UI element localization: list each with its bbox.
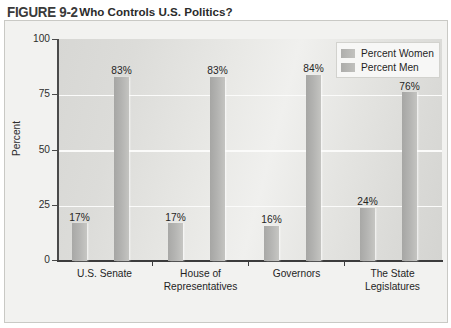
bar-value-label: 17% xyxy=(63,212,96,223)
bar-men-house-of-representatives[interactable]: 83% xyxy=(210,39,225,261)
bar-women-governors[interactable]: 16% xyxy=(264,39,279,261)
bar-value-label: 76% xyxy=(393,81,426,92)
bar-men-us-senate[interactable]: 83% xyxy=(114,39,129,261)
bar-chart: 0 25 50 75 100 Percent 17% 83% 17% xyxy=(5,21,449,324)
x-tick-mark-3 xyxy=(344,261,345,266)
bar-value-label: 24% xyxy=(351,196,384,207)
y-tick-label-25: 25 xyxy=(6,200,50,210)
bar-rect xyxy=(114,77,129,261)
legend-label: Percent Men xyxy=(361,62,419,73)
y-axis-labels: 0 25 50 75 100 xyxy=(5,21,50,324)
bar-rect xyxy=(360,208,375,261)
bar-rect xyxy=(306,75,321,262)
category-label-house-of-representatives: House of Representatives xyxy=(153,268,248,293)
y-tick-mark-25 xyxy=(52,205,57,206)
category-label-line: Representatives xyxy=(153,281,248,294)
category-label-governors: Governors xyxy=(249,268,344,281)
legend-swatch-icon xyxy=(341,49,355,58)
figure-panel: 0 25 50 75 100 Percent 17% 83% 17% xyxy=(4,20,448,323)
bar-value-label: 17% xyxy=(159,212,192,223)
category-label-us-senate: U.S. Senate xyxy=(57,268,152,281)
figure-number: FIGURE 9-2 xyxy=(7,4,78,19)
legend-label: Percent Women xyxy=(361,48,434,59)
bar-women-us-senate[interactable]: 17% xyxy=(72,39,87,261)
bar-rect xyxy=(168,223,183,261)
figure-caption: Who Controls U.S. Politics? xyxy=(79,5,232,19)
category-label-line: The State xyxy=(345,268,440,281)
y-axis-line xyxy=(57,39,59,261)
bar-value-label: 16% xyxy=(255,214,288,225)
y-tick-label-75: 75 xyxy=(6,89,50,99)
y-axis-title: Percent xyxy=(11,109,22,169)
bar-value-label: 84% xyxy=(297,63,330,74)
category-label-the-state-legislatures: The State Legislatures xyxy=(345,268,440,293)
y-tick-label-100: 100 xyxy=(6,34,50,44)
bar-value-label: 83% xyxy=(105,65,138,76)
bar-men-governors[interactable]: 84% xyxy=(306,39,321,261)
legend-item-percent-women[interactable]: Percent Women xyxy=(341,46,434,60)
y-tick-mark-50 xyxy=(52,150,57,151)
chart-legend: Percent Women Percent Men xyxy=(336,42,440,78)
y-tick-mark-0 xyxy=(52,260,57,261)
y-tick-mark-100 xyxy=(52,39,57,40)
bar-women-house-of-representatives[interactable]: 17% xyxy=(168,39,183,261)
x-tick-mark-1 xyxy=(152,261,153,266)
x-tick-mark-2 xyxy=(248,261,249,266)
legend-swatch-icon xyxy=(341,63,355,72)
category-label-line: U.S. Senate xyxy=(57,268,152,281)
y-tick-mark-75 xyxy=(52,94,57,95)
bar-value-label: 83% xyxy=(201,65,234,76)
y-tick-label-0: 0 xyxy=(6,255,50,265)
figure-header: FIGURE 9-2 Who Controls U.S. Politics? xyxy=(0,0,451,19)
bar-rect xyxy=(72,223,87,261)
category-label-line: Governors xyxy=(249,268,344,281)
bar-rect xyxy=(264,226,279,262)
category-label-line: House of xyxy=(153,268,248,281)
bar-rect xyxy=(402,92,417,261)
bar-rect xyxy=(210,77,225,261)
legend-item-percent-men[interactable]: Percent Men xyxy=(341,60,434,74)
category-label-line: Legislatures xyxy=(345,281,440,294)
